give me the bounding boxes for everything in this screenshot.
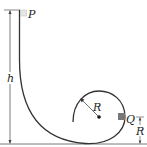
label-r-loop: R bbox=[92, 101, 101, 114]
label-h: h bbox=[7, 72, 14, 85]
block-q bbox=[118, 113, 125, 120]
track bbox=[20, 10, 126, 144]
label-r-height: R bbox=[135, 125, 144, 138]
start-block bbox=[21, 10, 27, 16]
diagram-canvas: h P R Q R bbox=[0, 0, 147, 147]
label-p: P bbox=[27, 8, 36, 21]
label-q: Q bbox=[126, 113, 135, 126]
loop-track-diagram: h P R Q R bbox=[0, 0, 147, 147]
